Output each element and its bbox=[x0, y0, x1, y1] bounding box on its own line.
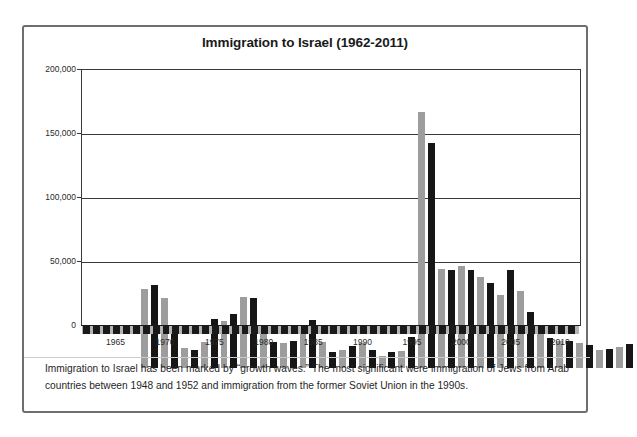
x-axis-tick-label: 2010 bbox=[551, 337, 570, 347]
bar bbox=[576, 343, 583, 368]
x-axis-tick-stub bbox=[172, 326, 179, 334]
bar bbox=[616, 347, 623, 368]
x-axis-tick-stub bbox=[103, 326, 110, 334]
x-axis-tick-stub bbox=[232, 326, 239, 334]
x-axis-tick-stub bbox=[518, 326, 525, 334]
x-axis-tick-stub bbox=[528, 326, 535, 334]
x-axis-tick-stub bbox=[449, 326, 456, 334]
y-axis-tick-label: 100,000 bbox=[24, 192, 76, 202]
bar bbox=[458, 266, 465, 368]
x-axis-tick-stub bbox=[271, 326, 278, 334]
x-axis-tick-stub bbox=[192, 326, 199, 334]
x-axis-tick-label: 1980 bbox=[254, 337, 273, 347]
bar bbox=[468, 270, 475, 368]
caption-divider bbox=[24, 357, 590, 358]
x-axis-tick-stub bbox=[113, 326, 120, 334]
bar bbox=[626, 344, 633, 368]
bar bbox=[230, 314, 237, 368]
x-axis-tick-stub bbox=[479, 326, 486, 334]
bar bbox=[477, 277, 484, 368]
x-axis-tick-stub bbox=[281, 326, 288, 334]
y-axis-tick-mark bbox=[77, 197, 81, 198]
y-axis-tick-label: 0 bbox=[24, 320, 76, 330]
x-axis-tick-stub bbox=[538, 326, 545, 334]
x-axis-tick-label: 2005 bbox=[501, 337, 520, 347]
x-axis-tick-stub bbox=[261, 326, 268, 334]
x-axis-tick-stub bbox=[410, 326, 417, 334]
bar bbox=[448, 270, 455, 368]
x-axis-tick-label: 1975 bbox=[205, 337, 224, 347]
y-axis-tick-mark bbox=[77, 261, 81, 262]
bar bbox=[438, 269, 445, 368]
y-axis-tick-mark bbox=[77, 133, 81, 134]
x-axis-tick-label: 1990 bbox=[353, 337, 372, 347]
figure-frame: Immigration to Israel (1962-2011) 050,00… bbox=[22, 25, 588, 413]
x-axis-tick-stub bbox=[380, 326, 387, 334]
x-axis-tick-stub bbox=[370, 326, 377, 334]
bar bbox=[507, 270, 514, 368]
x-axis-tick-stub bbox=[251, 326, 258, 334]
x-axis-tick-stub bbox=[568, 326, 575, 334]
x-axis-tick-stub bbox=[419, 326, 426, 334]
x-axis-tick-label: 1970 bbox=[156, 337, 175, 347]
chart-plot-wrapper: 050,000100,000150,000200,000 19651970197… bbox=[24, 27, 590, 415]
x-axis-tick-stubs bbox=[82, 326, 579, 334]
x-axis-tick-stub bbox=[459, 326, 466, 334]
x-axis-tick-stub bbox=[83, 326, 90, 334]
y-axis-tick-label: 150,000 bbox=[24, 128, 76, 138]
figure-caption: Immigration to Israel has been marked by… bbox=[45, 361, 569, 394]
x-axis-tick-stub bbox=[321, 326, 328, 334]
x-axis-tick-stub bbox=[202, 326, 209, 334]
x-axis-tick-stub bbox=[301, 326, 308, 334]
x-axis-tick-stub bbox=[498, 326, 505, 334]
x-axis-tick-stub bbox=[242, 326, 249, 334]
x-axis-tick-stub bbox=[340, 326, 347, 334]
x-axis-tick-stub bbox=[489, 326, 496, 334]
x-axis-tick-stub bbox=[330, 326, 337, 334]
x-axis-tick-label: 1985 bbox=[304, 337, 323, 347]
x-axis-tick-stub bbox=[469, 326, 476, 334]
x-axis-tick-stub bbox=[558, 326, 565, 334]
x-axis-tick-label: 1965 bbox=[106, 337, 125, 347]
plot-area bbox=[81, 69, 581, 326]
x-axis-tick-label: 2000 bbox=[452, 337, 471, 347]
x-axis-tick-stub bbox=[548, 326, 555, 334]
y-axis-tick-mark bbox=[77, 69, 81, 70]
x-axis-tick-stub bbox=[212, 326, 219, 334]
x-axis-tick-stub bbox=[163, 326, 170, 334]
x-axis-tick-stub bbox=[182, 326, 189, 334]
x-axis-tick-stub bbox=[429, 326, 436, 334]
x-axis-tick-stub bbox=[390, 326, 397, 334]
x-axis-tick-stub bbox=[143, 326, 150, 334]
x-axis-tick-stub bbox=[508, 326, 515, 334]
y-axis-tick-label: 200,000 bbox=[24, 64, 76, 74]
x-axis-tick-stub bbox=[123, 326, 130, 334]
x-axis-tick-stub bbox=[93, 326, 100, 334]
x-axis-tick-stub bbox=[222, 326, 229, 334]
bar bbox=[606, 349, 613, 368]
bar bbox=[428, 143, 435, 368]
x-axis-tick-stub bbox=[133, 326, 140, 334]
x-axis-tick-stub bbox=[400, 326, 407, 334]
x-axis-tick-stub bbox=[311, 326, 318, 334]
y-axis-tick-label: 50,000 bbox=[24, 256, 76, 266]
x-axis-tick-stub bbox=[291, 326, 298, 334]
x-axis-tick-stub bbox=[439, 326, 446, 334]
bar bbox=[527, 312, 534, 368]
x-axis-tick-stub bbox=[360, 326, 367, 334]
x-axis-tick-stub bbox=[350, 326, 357, 334]
bar bbox=[596, 350, 603, 368]
x-axis-tick-stub bbox=[153, 326, 160, 334]
x-axis-tick-label: 1995 bbox=[403, 337, 422, 347]
